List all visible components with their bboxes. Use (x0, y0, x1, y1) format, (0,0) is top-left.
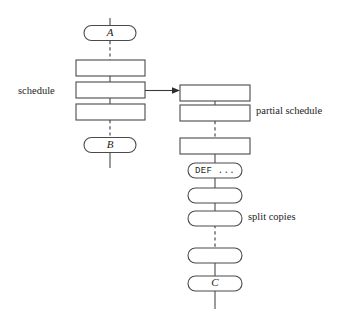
right-column-group: DEF ... C (180, 85, 250, 309)
node-c[interactable]: C (188, 276, 242, 291)
node-def[interactable]: DEF ... (188, 163, 242, 178)
node-c-label: C (211, 276, 219, 288)
annotation-split-copies: split copies (248, 212, 296, 223)
node-def-label: DEF ... (195, 166, 235, 176)
right-rect-3[interactable] (180, 138, 250, 154)
split-copy-1[interactable] (188, 188, 242, 203)
split-copy-2[interactable] (188, 211, 242, 226)
node-b[interactable]: B (84, 138, 136, 153)
diagram-canvas: A B (0, 0, 354, 321)
node-b-label: B (107, 138, 114, 150)
node-a[interactable]: A (84, 26, 136, 41)
diagram-graphics: A B (0, 0, 354, 321)
right-rect-2[interactable] (180, 105, 250, 121)
left-rect-3[interactable] (76, 104, 145, 120)
left-column-group: A B (76, 18, 145, 168)
left-rect-2[interactable] (76, 82, 145, 98)
annotation-schedule: schedule (18, 86, 55, 97)
arrow-head-icon (172, 87, 180, 93)
right-rect-1[interactable] (180, 85, 250, 101)
left-rect-1[interactable] (76, 60, 145, 76)
split-copy-3[interactable] (188, 248, 242, 263)
node-a-label: A (106, 26, 114, 38)
annotation-partial-schedule: partial schedule (256, 106, 322, 117)
schedule-to-partial-arrow (145, 87, 180, 93)
